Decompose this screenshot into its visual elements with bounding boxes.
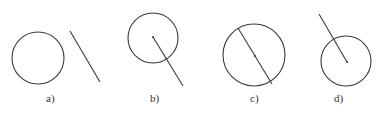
figure-b: b): [128, 13, 183, 105]
line-a: [70, 31, 100, 82]
line-b: [153, 37, 183, 86]
figure-label-d: d): [334, 92, 344, 105]
circle-a: [12, 32, 64, 84]
diagram-svg: a)b)c)d): [0, 0, 384, 115]
figure-label-c: c): [250, 92, 259, 105]
figure-label-a: a): [46, 92, 55, 105]
center-dot-d: [346, 61, 348, 63]
figure-a: a): [12, 31, 100, 105]
figure-d: d): [319, 14, 371, 105]
figure-label-b: b): [150, 92, 160, 105]
center-dot-c: [254, 55, 256, 57]
diagram-canvas: a)b)c)d) a) b) c) d): [0, 0, 384, 115]
center-dot-b: [152, 36, 154, 38]
figure-c: c): [223, 24, 285, 105]
line-d: [319, 14, 347, 62]
